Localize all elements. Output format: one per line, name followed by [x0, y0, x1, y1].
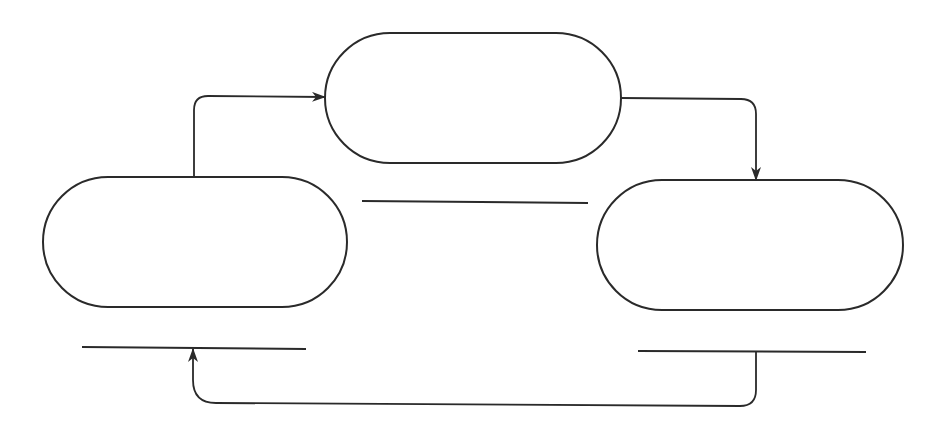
- node-right: [597, 180, 903, 310]
- cycle-diagram: [0, 0, 942, 426]
- arrow-left-to-top: [194, 96, 325, 177]
- arrow-top-to-right: [621, 98, 756, 180]
- arrow-right-to-left: [193, 349, 756, 406]
- underline-top: [362, 201, 588, 203]
- underline-right: [638, 351, 866, 352]
- underline-left: [82, 347, 306, 349]
- node-left: [43, 177, 347, 307]
- node-top: [325, 33, 621, 163]
